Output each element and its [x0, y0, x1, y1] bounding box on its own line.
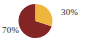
pie-slice-label-30: 30% [61, 7, 78, 17]
pie-chart-page: 30% 70% [0, 0, 89, 42]
pie-slice-label-70: 70% [2, 25, 19, 35]
pie-chart-figure: 30% 70% [0, 0, 89, 42]
